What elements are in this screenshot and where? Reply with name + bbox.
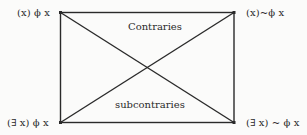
corner-dot-top-right <box>233 11 236 14</box>
relation-label-contraries: Contraries <box>128 22 182 32</box>
corner-dot-bottom-left <box>59 121 62 124</box>
corner-label-particular-affirmative: (∃ x) ϕ x <box>7 118 49 128</box>
corner-label-universal-negative: (x)~ϕ x <box>246 8 284 18</box>
corner-label-universal-affirmative: (x) ϕ x <box>17 8 50 18</box>
square-of-opposition: (x) ϕ x (x)~ϕ x (∃ x) ϕ x (∃ x) ~ ϕ x Co… <box>0 0 307 135</box>
corner-dot-top-left <box>59 11 62 14</box>
corner-label-particular-negative: (∃ x) ~ ϕ x <box>246 118 300 128</box>
corner-dot-bottom-right <box>233 121 236 124</box>
relation-label-subcontraries: subcontraries <box>115 100 185 110</box>
